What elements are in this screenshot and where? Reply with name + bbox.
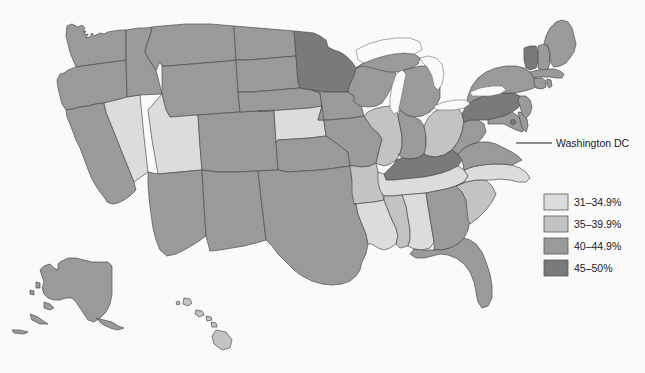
state-dc[interactable]: [510, 119, 515, 124]
legend-label-3: 45–50%: [574, 262, 613, 274]
washington-dc-label: Washington DC: [556, 137, 630, 149]
state-wy[interactable]: [162, 60, 240, 117]
state-nm[interactable]: [202, 170, 266, 251]
legend-item-2[interactable]: 40–44.9%: [544, 238, 621, 254]
legend-item-0[interactable]: 31–34.9%: [544, 194, 621, 210]
state-vt[interactable]: [524, 46, 538, 70]
legend-swatch-3: [544, 260, 568, 276]
legend-label-0: 31–34.9%: [574, 196, 621, 208]
legend-item-3[interactable]: 45–50%: [544, 260, 613, 276]
state-nd[interactable]: [234, 26, 296, 60]
state-co[interactable]: [198, 110, 278, 172]
state-ct[interactable]: [534, 78, 546, 89]
legend-label-1: 35–39.9%: [574, 218, 621, 230]
choropleth-map-figure: Washington DC 31–34.9% 35–39.9% 40–44.9%…: [0, 0, 645, 373]
legend-label-2: 40–44.9%: [574, 240, 621, 252]
us-choropleth-svg: Washington DC 31–34.9% 35–39.9% 40–44.9%…: [0, 0, 645, 373]
legend-swatch-1: [544, 216, 568, 232]
legend-swatch-2: [544, 238, 568, 254]
state-sd[interactable]: [236, 56, 300, 92]
legend-swatch-0: [544, 194, 568, 210]
legend-item-1[interactable]: 35–39.9%: [544, 216, 621, 232]
